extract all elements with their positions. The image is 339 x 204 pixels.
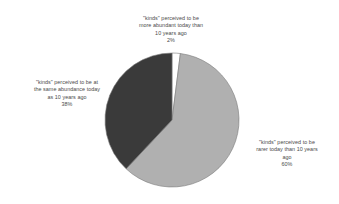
pie-label-rarer: "kinds" perceived to be rarer today than…: [236, 132, 338, 175]
pie-label-same-abundance-percent: 38%: [8, 101, 126, 108]
pie-label-rarer-text: "kinds" perceived to be rarer today than…: [256, 139, 317, 159]
pie-label-more-abundant-text: "kinds" perceived to be more abundant to…: [139, 15, 203, 35]
pie-chart: "kinds" perceived to be more abundant to…: [0, 0, 339, 204]
pie-label-rarer-percent: 60%: [236, 161, 338, 168]
pie-label-more-abundant: "kinds" perceived to be more abundant to…: [112, 8, 230, 51]
pie-label-same-abundance-text: "kinds" perceived to be at the same abun…: [34, 79, 100, 99]
pie-label-same-abundance: "kinds" perceived to be at the same abun…: [8, 72, 126, 115]
pie-label-more-abundant-percent: 2%: [112, 37, 230, 44]
